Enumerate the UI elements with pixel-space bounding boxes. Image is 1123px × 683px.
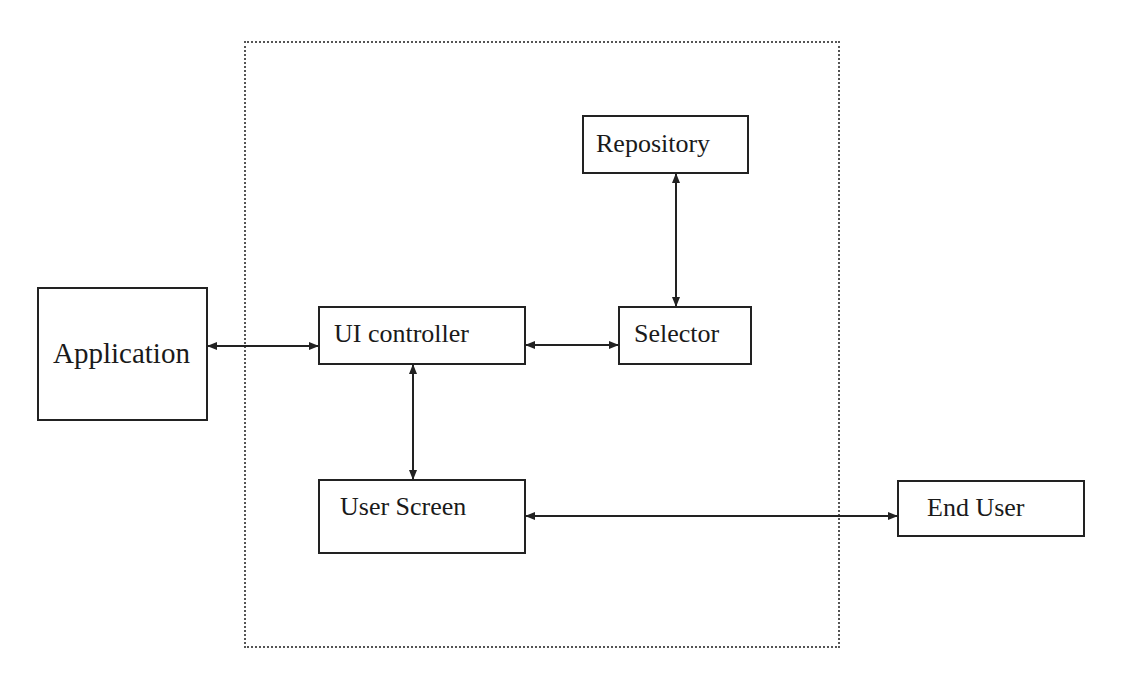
node-end-user-label: End User [927, 495, 1024, 521]
node-repository: Repository [582, 115, 749, 174]
node-user-screen: User Screen [318, 479, 526, 554]
node-selector-label: Selector [634, 321, 719, 347]
node-application: Application [37, 287, 208, 421]
node-repository-label: Repository [596, 131, 710, 157]
node-end-user: End User [897, 480, 1085, 537]
node-user-screen-label: User Screen [340, 494, 466, 520]
node-ui-controller: UI controller [318, 306, 526, 365]
node-ui-controller-label: UI controller [334, 321, 469, 347]
node-selector: Selector [618, 306, 752, 365]
node-application-label: Application [53, 339, 190, 368]
